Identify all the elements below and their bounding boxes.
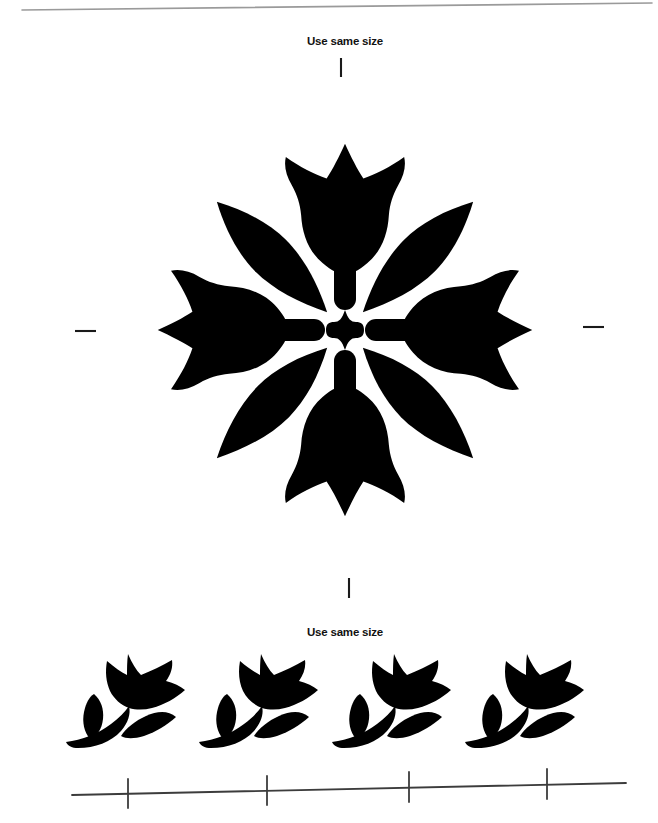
measurement-ruler [72,769,626,808]
page-edge-line [22,3,652,10]
rosette-capsule-right [365,319,445,341]
small-motif-4 [465,654,584,748]
label-use-same-size-top: Use same size [307,35,383,47]
small-motif-2 [199,654,318,748]
small-motif-1 [66,654,185,748]
rosette-capsule-top [334,230,356,310]
ruler-baseline [72,783,626,795]
small-tulip-motif-row [66,654,584,748]
rosette-capsule-left [245,319,325,341]
stencil-pattern-sheet: Use same size Use same size [0,0,658,823]
rosette-center-quatrefoil [326,310,364,350]
artwork-canvas [0,0,658,823]
small-motif-3 [332,654,451,748]
tulip-medallion [158,144,533,517]
rosette-capsule-bottom [334,350,356,430]
label-use-same-size-bottom: Use same size [307,626,383,638]
